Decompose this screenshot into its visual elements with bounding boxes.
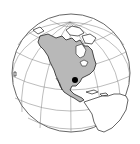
location-marker — [72, 77, 78, 83]
globe-map — [0, 0, 140, 144]
pacific-island — [14, 72, 16, 76]
caribbean-island — [100, 93, 108, 96]
